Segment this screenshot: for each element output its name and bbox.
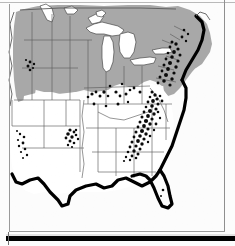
- scanned-page: Eastern and Central United States: [0, 0, 235, 246]
- page-rule-top: [0, 2, 235, 3]
- page-rule-right: [224, 0, 225, 231]
- us-distribution-map: [0, 0, 235, 246]
- page-rule-bottom: [9, 231, 225, 232]
- page-rule-left: [9, 4, 10, 232]
- bottom-bar-tick: [8, 232, 9, 245]
- scan-grain-overlay: [0, 0, 235, 232]
- bottom-black-bar: [6, 236, 235, 241]
